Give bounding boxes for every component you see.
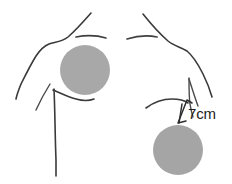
left-arm-contour bbox=[36, 84, 50, 110]
left-shaded-lesion-circle bbox=[60, 45, 110, 95]
torso-illustration: 7cm bbox=[0, 0, 232, 184]
sternum-midline bbox=[54, 89, 56, 176]
measurement-label: 7cm bbox=[188, 105, 216, 122]
right-neck-and-shoulder-contour bbox=[143, 14, 212, 97]
right-shaded-lesion-circle bbox=[153, 125, 203, 175]
breast-lesion-measurement-diagram: 7cm bbox=[0, 0, 232, 184]
left-clavicle-line bbox=[76, 36, 106, 38]
right-clavicle-line bbox=[127, 36, 157, 39]
